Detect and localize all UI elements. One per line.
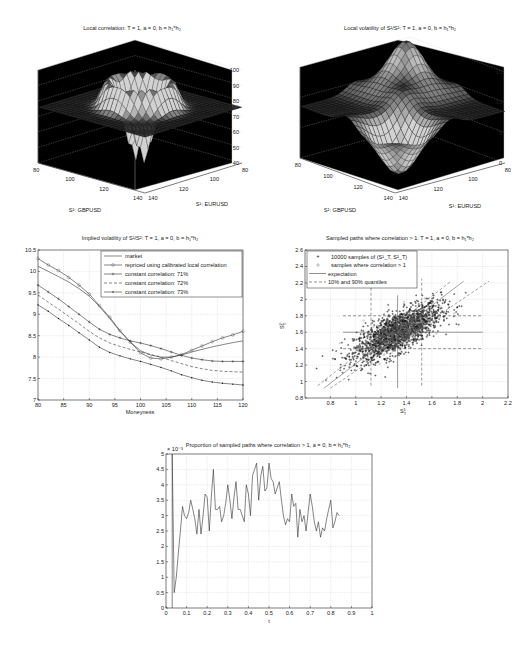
data-point (191, 377, 192, 378)
data-point (68, 325, 69, 326)
z-tick-label: 5 (499, 130, 502, 136)
x-tick-label: 2.2 (504, 400, 512, 406)
local-volatility-plot: Local volatility of S¹/S²: T = 1, a = 0,… (295, 25, 511, 213)
legend-label: samples where correlation > 1 (331, 262, 406, 268)
y-tick-label: 2.6 (295, 247, 303, 253)
legend-marker (112, 291, 113, 292)
legend-label: 10000 samples of (S¹_T, S²_T) (331, 254, 407, 260)
x-tick-label: 0.6 (286, 610, 294, 616)
y-tick-label: 10.5 (25, 247, 36, 253)
x-tick-label: 85 (61, 402, 67, 408)
y-tick-label: 80 (242, 167, 248, 173)
legend-label: 10% and 90% quantiles (328, 279, 387, 285)
local-correlation-plot: Local correlation: T = 1, a = 0, b = h₁*… (33, 25, 248, 213)
y-tick-label: 5 (161, 451, 164, 457)
x-tick-label: 105 (161, 402, 170, 408)
z-tick-label: 40 (233, 160, 239, 166)
local-volatility-xlabel: S²: GBPUSD (324, 207, 356, 213)
data-point (242, 384, 243, 385)
y-tick-label: 1.2 (295, 362, 303, 368)
y-tick-label: 9 (33, 311, 36, 317)
x-tick-label: 1 (370, 610, 373, 616)
x-tick-label: 0.4 (245, 610, 253, 616)
z-tick-label: 90 (233, 83, 239, 89)
data-point (201, 380, 202, 381)
z-tick-label: 60 (233, 129, 239, 135)
y-tick-label: 2.2 (295, 280, 303, 286)
x-tick-label: 0.8 (327, 610, 335, 616)
x-tick-label: 0.1 (183, 610, 191, 616)
local-volatility-ylabel: S¹: EURUSD (449, 203, 481, 209)
z-tick-label: 0 (499, 160, 502, 166)
proportion-paths-plot: Proportion of sampled paths where correl… (156, 442, 373, 624)
figure-canvas: Local correlation: T = 1, a = 0, b = h₁*… (0, 0, 529, 645)
x-tick-label: 80 (33, 167, 39, 173)
local-correlation-title: Local correlation: T = 1, a = 0, b = h₁*… (83, 25, 181, 31)
z-tick-label: 50 (233, 145, 239, 151)
x-tick-label: 0.9 (348, 610, 356, 616)
x-tick-label: 100 (323, 173, 332, 179)
x-tick-label: 140 (133, 195, 142, 201)
data-point (160, 367, 161, 368)
data-point (119, 355, 120, 356)
x-tick-label: 100 (136, 402, 145, 408)
legend: 10000 samples of (S¹_T, S²_T)samples whe… (307, 251, 417, 288)
x-tick-label: 1.2 (377, 400, 385, 406)
x-tick-label: 100 (65, 176, 74, 182)
data-point (99, 347, 100, 348)
y-tick-label: 0.8 (295, 395, 303, 401)
local-correlation-xlabel: S²: GBPUSD (69, 207, 101, 213)
x-tick-label: 140 (383, 195, 392, 201)
legend: marketrepriced using calibrated local co… (101, 251, 242, 297)
y-tick-label: 3 (161, 513, 164, 519)
y-tick-label: 2.4 (295, 263, 303, 269)
y-tick-label: 100 (468, 176, 477, 182)
x-tick-label: 80 (295, 162, 301, 168)
x-tick-label: 1 (354, 400, 357, 406)
legend-label: repriced using calibrated local correlat… (125, 262, 227, 268)
y-tick-label: 3.5 (156, 497, 164, 503)
x-tick-label: 0 (164, 610, 167, 616)
x-tick-label: 110 (187, 402, 196, 408)
x-tick-label: 120 (353, 184, 362, 190)
y-tick-label: 1.8 (295, 313, 303, 319)
sampled-paths-plot: Sampled paths where correlation > 1: T =… (278, 235, 512, 416)
y-tick-label: 80 (505, 167, 511, 173)
box-top (38, 40, 232, 70)
data-point (37, 304, 38, 305)
y-tick-label: 1 (161, 574, 164, 580)
sampled-paths-ylabel: S2T (278, 322, 287, 329)
z-tick-label: 70 (233, 114, 239, 120)
data-point (130, 358, 131, 359)
y-tick-label: 10 (30, 268, 36, 274)
x-tick-label: 0.7 (306, 610, 314, 616)
y-tick-label: 100 (210, 176, 219, 182)
data-point (171, 370, 172, 371)
x-tick-label: 0.2 (203, 610, 211, 616)
data-point (140, 361, 141, 362)
x-tick-label: 1.8 (453, 400, 461, 406)
data-point (222, 383, 223, 384)
x-tick-label: 90 (86, 402, 92, 408)
data-point (181, 374, 182, 375)
z-tick-label: 80 (233, 98, 239, 104)
y-tick-label: 4.5 (156, 466, 164, 472)
y-tick-label: 140 (148, 195, 157, 201)
y-tick-label: 0 (161, 605, 164, 611)
x-tick-label: 120 (238, 402, 247, 408)
y-tick-label: 1 (300, 379, 303, 385)
sampled-paths-xlabel: S1T (400, 407, 407, 416)
x-tick-label: 120 (99, 186, 108, 192)
y-tick-label: 140 (399, 195, 408, 201)
legend-label: market (125, 253, 143, 259)
y-multiplier: × 10⁻³ (167, 446, 183, 452)
y-tick-label: 1.6 (295, 329, 303, 335)
y-tick-label: 7.5 (28, 376, 36, 382)
y-tick-label: 4 (161, 482, 164, 488)
y-tick-label: 2.5 (156, 528, 164, 534)
data-point (48, 311, 49, 312)
legend-label: expectation (328, 271, 357, 277)
local-volatility-title: Local volatility of S¹/S²: T = 1, a = 0,… (344, 25, 456, 31)
legend-label: constant correlation: 71% (125, 271, 188, 277)
data-point (78, 332, 79, 333)
